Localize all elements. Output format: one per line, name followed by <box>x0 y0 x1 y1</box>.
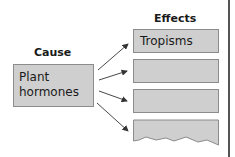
effect-box-4 <box>134 120 219 145</box>
diagram-graphics <box>0 0 235 157</box>
arrow-4 <box>97 103 128 131</box>
arrow-2 <box>99 71 127 80</box>
arrow-3 <box>99 91 127 101</box>
divider-line <box>228 0 230 157</box>
arrow-1 <box>98 44 128 70</box>
